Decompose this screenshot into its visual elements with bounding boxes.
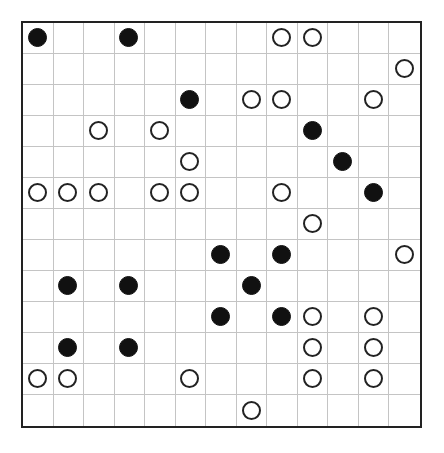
grid-cell-r0-c12[interactable] bbox=[389, 23, 420, 54]
grid-cell-r4-c1[interactable] bbox=[54, 147, 85, 178]
grid-cell-r3-c2[interactable] bbox=[84, 116, 115, 147]
grid-cell-r9-c7[interactable] bbox=[237, 302, 268, 333]
grid-cell-r12-c11[interactable] bbox=[359, 395, 390, 426]
grid-cell-r7-c12[interactable] bbox=[389, 240, 420, 271]
grid-cell-r7-c3[interactable] bbox=[115, 240, 146, 271]
grid-cell-r12-c10[interactable] bbox=[328, 395, 359, 426]
grid-cell-r11-c7[interactable] bbox=[237, 364, 268, 395]
grid-cell-r1-c9[interactable] bbox=[298, 54, 329, 85]
grid-cell-r3-c1[interactable] bbox=[54, 116, 85, 147]
grid-cell-r3-c9[interactable] bbox=[298, 116, 329, 147]
grid-cell-r5-c6[interactable] bbox=[206, 178, 237, 209]
grid-cell-r1-c4[interactable] bbox=[145, 54, 176, 85]
grid-cell-r4-c7[interactable] bbox=[237, 147, 268, 178]
grid-cell-r2-c9[interactable] bbox=[298, 85, 329, 116]
grid-cell-r0-c10[interactable] bbox=[328, 23, 359, 54]
grid-cell-r0-c11[interactable] bbox=[359, 23, 390, 54]
grid-cell-r11-c9[interactable] bbox=[298, 364, 329, 395]
grid-cell-r10-c0[interactable] bbox=[23, 333, 54, 364]
grid-cell-r3-c4[interactable] bbox=[145, 116, 176, 147]
grid-cell-r10-c10[interactable] bbox=[328, 333, 359, 364]
grid-cell-r7-c0[interactable] bbox=[23, 240, 54, 271]
grid-cell-r11-c10[interactable] bbox=[328, 364, 359, 395]
grid-cell-r6-c6[interactable] bbox=[206, 209, 237, 240]
grid-cell-r8-c7[interactable] bbox=[237, 271, 268, 302]
grid-cell-r11-c11[interactable] bbox=[359, 364, 390, 395]
grid-cell-r1-c5[interactable] bbox=[176, 54, 207, 85]
grid-cell-r2-c3[interactable] bbox=[115, 85, 146, 116]
grid-cell-r12-c4[interactable] bbox=[145, 395, 176, 426]
grid-cell-r1-c11[interactable] bbox=[359, 54, 390, 85]
grid-cell-r12-c9[interactable] bbox=[298, 395, 329, 426]
grid-cell-r6-c10[interactable] bbox=[328, 209, 359, 240]
grid-cell-r2-c0[interactable] bbox=[23, 85, 54, 116]
grid-cell-r9-c8[interactable] bbox=[267, 302, 298, 333]
grid-cell-r8-c3[interactable] bbox=[115, 271, 146, 302]
grid-cell-r6-c9[interactable] bbox=[298, 209, 329, 240]
grid-cell-r12-c8[interactable] bbox=[267, 395, 298, 426]
grid-cell-r2-c7[interactable] bbox=[237, 85, 268, 116]
grid-cell-r6-c2[interactable] bbox=[84, 209, 115, 240]
grid-cell-r0-c6[interactable] bbox=[206, 23, 237, 54]
grid-cell-r12-c3[interactable] bbox=[115, 395, 146, 426]
grid-cell-r1-c6[interactable] bbox=[206, 54, 237, 85]
grid-cell-r2-c4[interactable] bbox=[145, 85, 176, 116]
grid-cell-r5-c2[interactable] bbox=[84, 178, 115, 209]
grid-cell-r2-c12[interactable] bbox=[389, 85, 420, 116]
grid-cell-r4-c12[interactable] bbox=[389, 147, 420, 178]
grid-cell-r0-c5[interactable] bbox=[176, 23, 207, 54]
grid-cell-r6-c12[interactable] bbox=[389, 209, 420, 240]
grid-cell-r7-c10[interactable] bbox=[328, 240, 359, 271]
grid-cell-r1-c0[interactable] bbox=[23, 54, 54, 85]
grid-cell-r1-c3[interactable] bbox=[115, 54, 146, 85]
grid-cell-r4-c4[interactable] bbox=[145, 147, 176, 178]
grid-cell-r3-c5[interactable] bbox=[176, 116, 207, 147]
grid-cell-r8-c1[interactable] bbox=[54, 271, 85, 302]
grid-cell-r7-c2[interactable] bbox=[84, 240, 115, 271]
grid-cell-r11-c0[interactable] bbox=[23, 364, 54, 395]
grid-cell-r2-c1[interactable] bbox=[54, 85, 85, 116]
grid-cell-r9-c6[interactable] bbox=[206, 302, 237, 333]
grid-cell-r7-c6[interactable] bbox=[206, 240, 237, 271]
grid-cell-r11-c5[interactable] bbox=[176, 364, 207, 395]
grid-cell-r8-c8[interactable] bbox=[267, 271, 298, 302]
grid-cell-r7-c9[interactable] bbox=[298, 240, 329, 271]
grid-cell-r4-c6[interactable] bbox=[206, 147, 237, 178]
grid-cell-r5-c10[interactable] bbox=[328, 178, 359, 209]
grid-cell-r12-c1[interactable] bbox=[54, 395, 85, 426]
grid-cell-r1-c12[interactable] bbox=[389, 54, 420, 85]
grid-cell-r8-c0[interactable] bbox=[23, 271, 54, 302]
grid-cell-r8-c2[interactable] bbox=[84, 271, 115, 302]
grid-cell-r5-c3[interactable] bbox=[115, 178, 146, 209]
grid-cell-r2-c2[interactable] bbox=[84, 85, 115, 116]
grid-cell-r9-c11[interactable] bbox=[359, 302, 390, 333]
grid-cell-r10-c8[interactable] bbox=[267, 333, 298, 364]
grid-cell-r1-c7[interactable] bbox=[237, 54, 268, 85]
grid-cell-r4-c5[interactable] bbox=[176, 147, 207, 178]
grid-cell-r10-c3[interactable] bbox=[115, 333, 146, 364]
grid-cell-r9-c12[interactable] bbox=[389, 302, 420, 333]
grid-cell-r5-c4[interactable] bbox=[145, 178, 176, 209]
grid-cell-r1-c1[interactable] bbox=[54, 54, 85, 85]
grid-cell-r11-c2[interactable] bbox=[84, 364, 115, 395]
grid-cell-r2-c6[interactable] bbox=[206, 85, 237, 116]
grid-cell-r2-c10[interactable] bbox=[328, 85, 359, 116]
grid-cell-r12-c6[interactable] bbox=[206, 395, 237, 426]
grid-cell-r4-c11[interactable] bbox=[359, 147, 390, 178]
grid-cell-r12-c5[interactable] bbox=[176, 395, 207, 426]
grid-cell-r3-c7[interactable] bbox=[237, 116, 268, 147]
grid-cell-r2-c11[interactable] bbox=[359, 85, 390, 116]
grid-cell-r0-c2[interactable] bbox=[84, 23, 115, 54]
grid-cell-r2-c8[interactable] bbox=[267, 85, 298, 116]
grid-cell-r6-c5[interactable] bbox=[176, 209, 207, 240]
grid-cell-r4-c9[interactable] bbox=[298, 147, 329, 178]
grid-cell-r9-c4[interactable] bbox=[145, 302, 176, 333]
grid-cell-r3-c10[interactable] bbox=[328, 116, 359, 147]
grid-cell-r3-c6[interactable] bbox=[206, 116, 237, 147]
grid-cell-r9-c0[interactable] bbox=[23, 302, 54, 333]
grid-cell-r7-c8[interactable] bbox=[267, 240, 298, 271]
grid-cell-r8-c5[interactable] bbox=[176, 271, 207, 302]
grid-cell-r8-c12[interactable] bbox=[389, 271, 420, 302]
grid-cell-r5-c1[interactable] bbox=[54, 178, 85, 209]
grid-cell-r3-c0[interactable] bbox=[23, 116, 54, 147]
